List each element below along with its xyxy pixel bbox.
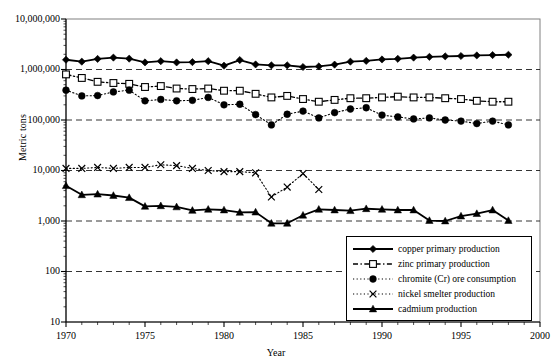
legend-item[interactable]: cadmium production: [347, 301, 531, 316]
data-point: [221, 87, 228, 94]
data-point: [94, 92, 101, 99]
data-point: [142, 97, 149, 104]
y-tick-label: 10: [4, 316, 60, 327]
data-point: [442, 117, 449, 124]
data-point: [173, 97, 180, 104]
data-point: [126, 87, 133, 94]
data-point: [63, 87, 70, 94]
data-point: [458, 96, 465, 103]
legend-item[interactable]: zinc primary production: [347, 256, 531, 271]
data-point: [252, 90, 259, 97]
data-point: [347, 95, 354, 102]
data-point: [489, 98, 496, 105]
data-point: [458, 118, 465, 125]
chart-legend: copper primary productionzinc primary pr…: [346, 236, 532, 321]
data-point: [110, 89, 117, 96]
data-point: [268, 94, 275, 101]
data-point: [505, 98, 512, 105]
legend-label: zinc primary production: [395, 259, 490, 269]
data-point: [473, 120, 480, 127]
data-point: [236, 87, 243, 94]
data-point: [410, 94, 417, 101]
y-tick-label: 10,000,000: [4, 13, 60, 24]
data-point: [426, 115, 433, 122]
data-point: [268, 121, 275, 128]
y-tick-label: 100,000: [4, 114, 60, 125]
data-point: [363, 95, 370, 102]
x-tick-label: 1975: [125, 330, 165, 341]
y-tick-label: 10,000: [4, 164, 60, 175]
y-tick-label: 1,000: [4, 215, 60, 226]
data-point: [370, 260, 377, 267]
data-point: [489, 118, 496, 125]
data-point: [78, 93, 85, 100]
legend-label: cadmium production: [395, 304, 477, 314]
data-point: [284, 111, 291, 118]
data-point: [205, 94, 212, 101]
x-tick-label: 1980: [204, 330, 244, 341]
data-point: [221, 101, 228, 108]
data-point: [370, 275, 377, 282]
data-point: [284, 93, 291, 100]
data-point: [205, 85, 212, 92]
data-point: [369, 245, 376, 252]
x-axis-label: Year: [0, 347, 552, 358]
legend-marker-circle-filled-icon: [351, 272, 395, 286]
legend-marker-diamond-icon: [351, 242, 395, 256]
data-point: [410, 116, 417, 123]
data-point: [394, 93, 401, 100]
data-point: [505, 121, 512, 128]
x-tick-label: 1995: [441, 330, 481, 341]
data-point: [426, 94, 433, 101]
data-point: [110, 80, 117, 87]
data-point: [300, 96, 307, 103]
data-point: [300, 108, 307, 115]
legend-label: nickel smelter production: [395, 289, 495, 299]
data-point: [347, 106, 354, 113]
data-point: [315, 115, 322, 122]
data-point: [142, 84, 149, 91]
legend-marker-triangle-filled-icon: [351, 302, 395, 316]
data-point: [173, 85, 180, 92]
x-tick-label: 1985: [283, 330, 323, 341]
y-tick-label: 1,000,000: [4, 63, 60, 74]
data-point: [63, 71, 70, 78]
legend-marker-cross-icon: [351, 287, 395, 301]
data-point: [94, 78, 101, 85]
legend-marker-square-open-icon: [351, 257, 395, 271]
data-point: [394, 114, 401, 121]
data-point: [315, 98, 322, 105]
data-point: [363, 104, 370, 111]
x-tick-label: 1970: [46, 330, 86, 341]
data-point: [126, 80, 133, 87]
data-point: [252, 111, 259, 118]
x-tick-label: 2000: [520, 330, 552, 341]
data-point: [157, 96, 164, 103]
data-point: [157, 83, 164, 90]
data-point: [78, 75, 85, 82]
data-point: [379, 94, 386, 101]
legend-label: copper primary production: [395, 244, 500, 254]
data-point: [331, 109, 338, 116]
legend-label: chromite (Cr) ore consumption: [395, 274, 516, 284]
chart-figure: Metric tons Year 10,000,0001,000,000100,…: [0, 0, 552, 363]
legend-item[interactable]: copper primary production: [347, 241, 531, 256]
y-tick-label: 100: [4, 265, 60, 276]
x-tick-label: 1990: [362, 330, 402, 341]
data-point: [189, 97, 196, 104]
data-point: [473, 97, 480, 104]
data-point: [189, 86, 196, 93]
data-point: [236, 101, 243, 108]
data-point: [331, 97, 338, 104]
legend-item[interactable]: nickel smelter production: [347, 286, 531, 301]
data-point: [442, 95, 449, 102]
data-point: [379, 112, 386, 119]
legend-item[interactable]: chromite (Cr) ore consumption: [347, 271, 531, 286]
x-axis-ticks: [66, 322, 540, 327]
